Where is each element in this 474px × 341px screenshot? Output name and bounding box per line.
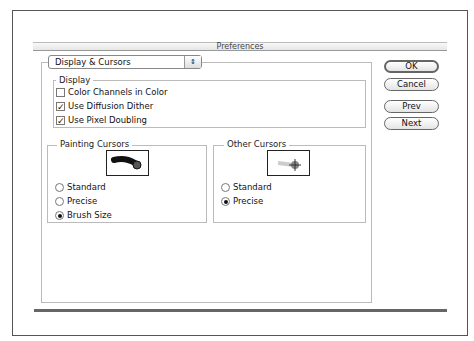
checkbox-pixel-doubling[interactable]: ✓ Use Pixel Doubling [56,115,147,125]
radio[interactable] [55,183,64,192]
radio-painting-brush-size[interactable]: Brush Size [55,210,112,220]
divider [34,309,447,312]
other-cursors-label: Other Cursors [224,139,289,149]
crosshair-cursor-icon [268,151,309,175]
section-popup[interactable]: Display & Cursors ⇕ [48,55,202,69]
cancel-button[interactable]: Cancel [384,78,439,91]
painting-cursors-label: Painting Cursors [57,139,132,149]
brush-cursor-preview [106,150,149,176]
checkbox-label: Use Pixel Doubling [68,115,147,125]
radio-label: Standard [233,182,272,192]
precise-cursor-preview [267,150,310,176]
checkbox[interactable] [56,88,65,97]
radio-painting-standard[interactable]: Standard [55,182,106,192]
radio-painting-precise[interactable]: Precise [55,196,97,206]
checkbox-label: Use Diffusion Dither [68,101,153,111]
checkbox-diffusion-dither[interactable]: ✓ Use Diffusion Dither [56,101,153,111]
ok-button[interactable]: OK [384,60,439,73]
checkbox[interactable]: ✓ [56,102,65,111]
brush-stroke-icon [107,151,148,175]
radio[interactable] [221,197,230,206]
display-group-label: Display [56,75,93,85]
updown-arrows-icon: ⇕ [184,56,201,68]
checkbox-label: Color Channels in Color [68,87,168,97]
radio-label: Precise [67,196,97,206]
checkbox-color-channels[interactable]: Color Channels in Color [56,87,168,97]
radio-other-standard[interactable]: Standard [221,182,272,192]
radio-label: Standard [67,182,106,192]
window-title: Preferences [33,42,447,51]
radio-label: Precise [233,196,263,206]
radio[interactable] [221,183,230,192]
radio[interactable] [55,197,64,206]
section-popup-value: Display & Cursors [55,57,131,67]
radio[interactable] [55,211,64,220]
prev-button[interactable]: Prev [384,100,439,113]
checkbox[interactable]: ✓ [56,116,65,125]
radio-other-precise[interactable]: Precise [221,196,263,206]
radio-label: Brush Size [67,210,112,220]
next-button[interactable]: Next [384,117,439,130]
